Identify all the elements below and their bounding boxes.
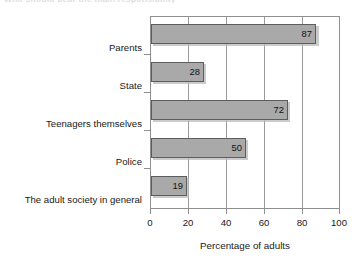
x-axis-tick [188,209,189,214]
x-axis-tick [150,209,151,214]
bar: 72 [151,100,288,120]
bar: 28 [151,62,204,82]
category-label: The adult society in general [0,194,142,205]
clipped-chart-title: Who should bear the main responsibility [4,0,204,3]
x-axis-tick-label: 60 [244,217,284,228]
bar: 50 [151,138,246,158]
x-axis-tick-label: 0 [130,217,170,228]
category-label: Police [0,156,142,167]
bar-value-label: 72 [274,105,287,114]
category-axis-labels: Parents State Teenagers themselves Polic… [0,16,146,209]
category-label: State [0,80,142,91]
plot-area: 87 28 72 50 19 [150,16,340,209]
bar-chart: Who should bear the main responsibility … [0,0,358,269]
bar-value-label: 50 [232,143,245,152]
x-axis-tick [339,209,340,214]
bar: 87 [151,24,316,44]
x-axis-tick [264,209,265,214]
category-label: Parents [0,42,142,53]
x-axis-tick-label: 40 [206,217,246,228]
x-axis-title: Percentage of adults [150,240,340,252]
bar: 19 [151,176,187,196]
x-axis-tick [302,209,303,214]
x-axis-tick-label: 80 [282,217,322,228]
category-label: Teenagers themselves [0,118,142,129]
x-axis-tick-label: 100 [319,217,358,228]
bar-value-label: 19 [173,181,186,190]
bar-value-label: 28 [190,67,203,76]
bar-value-label: 87 [302,29,315,38]
x-axis-tick [226,209,227,214]
x-axis-tick-label: 20 [168,217,208,228]
